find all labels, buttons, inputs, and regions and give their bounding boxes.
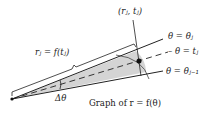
theta-j-minus-1-label: θ = θⱼ₋₁ — [166, 66, 199, 76]
theta-tj-label: – θ = tⱼ — [168, 46, 199, 56]
ray-theta-tj — [12, 52, 168, 99]
polar-sector-diagram: (rⱼ, tⱼ) rⱼ = f(tⱼ) θ = θⱼ – θ = tⱼ θ = … — [0, 0, 213, 117]
delta-theta-label: Δθ — [54, 93, 66, 103]
origin-point — [10, 97, 13, 100]
theta-j-label: θ = θⱼ — [168, 31, 194, 41]
point-label: (rⱼ, tⱼ) — [118, 6, 142, 16]
graph-label: Graph of r = f(θ) — [89, 98, 161, 108]
sample-point — [137, 59, 142, 64]
radius-label: rⱼ = f(tⱼ) — [35, 47, 69, 57]
shaded-sector — [12, 51, 146, 99]
